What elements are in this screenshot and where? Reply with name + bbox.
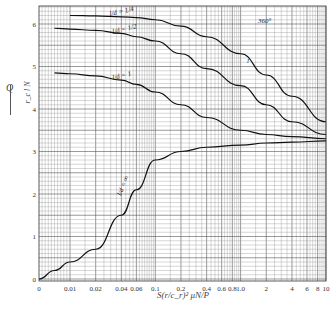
y-axis-label-fraction-bar	[10, 85, 11, 115]
y-tick-label: 3	[33, 148, 37, 156]
plot-frame	[39, 6, 326, 281]
annotation-360: 360°	[257, 17, 272, 25]
x-tick-label: 2	[265, 285, 269, 293]
y-tick-label: 5	[33, 63, 37, 71]
x-tick-label: 4	[290, 285, 294, 293]
x-axis-label: S(r/c_r)² μN/P	[157, 290, 209, 300]
y-tick-label: 1	[33, 233, 37, 241]
curve-2	[55, 73, 326, 139]
y-tick-label: 2	[33, 191, 37, 199]
x-tick-label: 10	[322, 285, 330, 293]
x-tick-label: 0.6	[217, 285, 226, 293]
x-tick-label: 0	[37, 285, 41, 293]
x-tick-label: 0.01	[64, 285, 77, 293]
y-axis-ticks: 0123456	[33, 21, 37, 284]
x-tick-label: 6	[305, 285, 309, 293]
curve-1	[55, 28, 326, 134]
y-tick-label: 0	[33, 276, 37, 284]
x-tick-label: 0.02	[90, 285, 103, 293]
y-tick-label: 4	[33, 106, 37, 114]
x-tick-label: 8	[316, 285, 320, 293]
curve-end-label: l	[247, 57, 249, 65]
y-axis-label-denominator: r_c l N	[23, 81, 32, 103]
chart-plot: 00.010.020.040.060.10.20.40.60.81.024681…	[0, 0, 333, 317]
y-tick-label: 6	[33, 21, 37, 29]
x-tick-label: 0.04	[115, 285, 128, 293]
grid-lines	[39, 6, 326, 281]
x-tick-label: 1.0	[236, 285, 245, 293]
x-tick-label: 0.06	[130, 285, 143, 293]
curve-3	[39, 141, 326, 279]
